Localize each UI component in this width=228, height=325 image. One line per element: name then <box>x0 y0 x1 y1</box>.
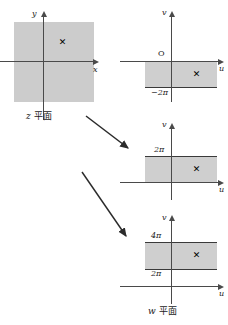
w-plane-lower-origin-label: O <box>158 50 165 58</box>
w-plane-principal-u-axis-label: u <box>219 186 224 194</box>
z-plane-caption-var: z <box>26 111 31 121</box>
w-plane-principal-v-axis-label: v <box>162 121 167 129</box>
w-plane-lower-v-axis-label: v <box>162 9 167 17</box>
mapping-arrow-to-upper-strip <box>80 168 148 248</box>
w-plane-principal-point-marker: ✕ <box>192 165 201 174</box>
z-plane-y-axis <box>43 16 44 120</box>
w-plane-upper-strip <box>145 242 217 270</box>
w-plane-lower-strip <box>145 61 217 88</box>
z-plane-x-axis <box>0 61 94 62</box>
w-plane-principal-strip <box>145 156 217 183</box>
w-plane-lower-u-axis <box>120 61 219 62</box>
w-plane-lower-u-axis-label: u <box>219 65 224 73</box>
z-plane-caption-cjk: 平面 <box>34 111 52 121</box>
w-plane-caption-var: w <box>148 306 156 316</box>
w-plane-upper-v-axis-arrowhead <box>169 215 175 221</box>
w-plane-lower-point-marker: ✕ <box>192 70 201 79</box>
w-plane-panel-lower: u v O −2π ✕ <box>118 0 228 108</box>
w-plane-principal-top-tick-label: 2π <box>154 146 164 154</box>
w-plane-lower-v-axis-arrowhead <box>169 11 175 17</box>
z-plane-caption: z 平面 <box>26 112 52 121</box>
z-plane-x-axis-arrowhead <box>93 59 99 65</box>
w-plane-caption: w 平面 <box>148 307 177 316</box>
complex-mapping-figure: x y ✕ z 平面 u v O −2π ✕ <box>0 0 228 325</box>
w-plane-principal-v-axis <box>171 128 172 200</box>
w-plane-upper-u-axis-label: u <box>219 290 224 298</box>
mapping-arrow-to-principal-strip <box>84 112 144 158</box>
w-plane-caption-cjk: 平面 <box>159 306 177 316</box>
w-plane-upper-u-axis <box>120 286 219 287</box>
w-plane-upper-v-axis <box>171 220 172 304</box>
w-plane-upper-point-marker: ✕ <box>192 251 201 260</box>
z-plane-point-marker: ✕ <box>58 38 67 47</box>
w-plane-upper-top-tick-label: 4π <box>151 232 161 240</box>
z-plane-y-axis-label: y <box>32 10 37 18</box>
z-plane-panel: x y ✕ z 平面 <box>0 0 114 130</box>
w-plane-upper-v-axis-label: v <box>162 214 167 222</box>
z-plane-x-axis-label: x <box>93 66 98 74</box>
w-plane-upper-bottom-tick-label: 2π <box>151 270 161 278</box>
w-plane-principal-v-axis-arrowhead <box>169 123 175 129</box>
w-plane-lower-bottom-tick-label: −2π <box>151 89 168 97</box>
w-plane-lower-v-axis <box>171 16 172 102</box>
z-plane-y-axis-arrowhead <box>41 11 47 17</box>
